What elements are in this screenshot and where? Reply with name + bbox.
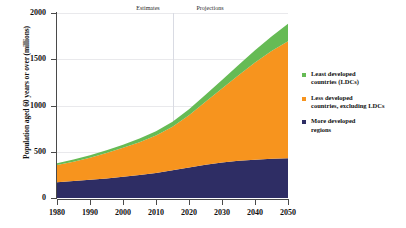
y-tick-label: 500	[0, 147, 46, 156]
chart-legend: Least developedcountries (LDCs) Less dev…	[302, 70, 404, 141]
chart-figure: Population aged 60 years or over (millio…	[0, 0, 406, 228]
legend-item-less-developed-excluding-ldcs[interactable]: Less developedcountries, excluding LDCs	[302, 94, 404, 111]
x-tick-mark	[288, 200, 289, 205]
legend-swatch-navy	[302, 120, 306, 124]
y-tick-mark	[51, 198, 56, 199]
x-tick-mark	[222, 200, 223, 205]
y-tick-label: 2000	[0, 8, 46, 17]
x-tick-mark	[189, 200, 190, 205]
y-tick-mark	[51, 106, 56, 107]
y-tick-mark	[51, 13, 56, 14]
y-tick-label: 1000	[0, 101, 46, 110]
annotation-projections: Projections	[175, 5, 245, 11]
x-tick-mark	[255, 200, 256, 205]
x-tick-label: 2050	[268, 208, 308, 217]
legend-label: More developedregions	[311, 117, 355, 134]
x-tick-mark	[156, 200, 157, 205]
y-axis-line	[56, 12, 57, 199]
y-axis-title: Population aged 60 years or over (millio…	[22, 0, 31, 193]
y-tick-label: 1500	[0, 54, 46, 63]
x-tick-mark	[57, 200, 58, 205]
legend-label: Less developedcountries, excluding LDCs	[311, 94, 385, 111]
stacked-area-series	[57, 13, 288, 198]
plot-area	[57, 13, 288, 198]
x-tick-mark	[123, 200, 124, 205]
legend-swatch-orange	[302, 97, 306, 101]
y-tick-mark	[51, 152, 56, 153]
legend-label: Least developedcountries (LDCs)	[311, 70, 359, 87]
legend-item-least-developed-countries[interactable]: Least developedcountries (LDCs)	[302, 70, 404, 87]
y-tick-mark	[51, 59, 56, 60]
x-tick-mark	[90, 200, 91, 205]
legend-swatch-green	[302, 73, 306, 77]
legend-item-more-developed-regions[interactable]: More developedregions	[302, 117, 404, 134]
annotation-estimates: Estimates	[113, 5, 183, 11]
y-tick-label: 0	[0, 193, 46, 202]
